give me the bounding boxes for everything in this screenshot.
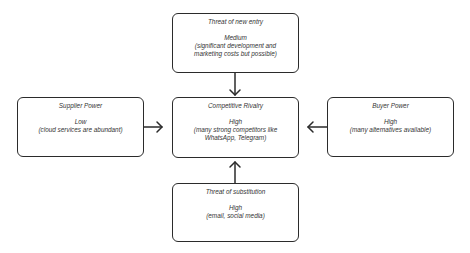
node-level: High: [173, 118, 298, 126]
node-title: Buyer Power: [328, 102, 453, 110]
node-threat-of-new-entry: Threat of new entry Medium (significant …: [172, 13, 299, 73]
node-title: Threat of substitution: [173, 188, 298, 196]
node-detail: (many alternatives available): [328, 126, 453, 134]
node-detail: (significant development and marketing c…: [173, 42, 298, 58]
node-title: Competitive Rivalry: [173, 102, 298, 110]
node-detail: (many strong competitors like WhatsApp, …: [173, 126, 298, 142]
node-title: Threat of new entry: [173, 18, 298, 26]
node-supplier-power: Supplier Power Low (cloud services are a…: [17, 97, 144, 157]
node-detail: (email, social media): [173, 212, 298, 220]
node-level: High: [173, 204, 298, 212]
node-competitive-rivalry: Competitive Rivalry High (many strong co…: [172, 97, 299, 158]
node-threat-of-substitution: Threat of substitution High (email, soci…: [172, 183, 299, 242]
node-detail: (cloud services are abundant): [18, 126, 143, 134]
node-buyer-power: Buyer Power High (many alternatives avai…: [327, 97, 454, 157]
node-title: Supplier Power: [18, 102, 143, 110]
node-level: Medium: [173, 34, 298, 42]
node-level: Low: [18, 118, 143, 126]
node-level: High: [328, 118, 453, 126]
